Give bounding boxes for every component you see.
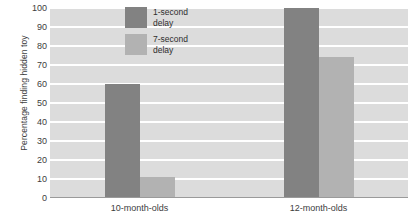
y-axis-tick-label: 10 [14,175,47,184]
bar-group [284,8,354,198]
y-axis-tick-label: 30 [14,137,47,146]
legend-swatch-icon [125,34,147,55]
bar[interactable] [105,84,140,198]
legend-swatch-icon [125,7,147,28]
x-axis-tick-label: 12-month-olds [259,203,379,214]
chart-legend: 1-second delay7-second delay [125,7,188,55]
x-axis-tick-label: 10-month-olds [80,203,200,214]
y-axis-tick-labels: 0102030405060708090100 [14,8,47,198]
y-axis-tick-label: 70 [14,61,47,70]
bar[interactable] [284,8,319,198]
legend-label: 7-second delay [153,34,188,55]
y-axis-tick-label: 0 [14,194,47,203]
y-axis-tick-label: 80 [14,42,47,51]
bar[interactable] [319,57,354,198]
x-axis-tick-labels: 10-month-olds12-month-olds [50,203,408,219]
plot-area [50,8,408,198]
y-axis-tick-label: 40 [14,118,47,127]
bars-layer [50,8,408,198]
legend-label: 1-second delay [153,7,188,28]
y-axis-tick-label: 100 [14,4,47,13]
bar-chart: Percentage finding hidden toy 0102030405… [0,0,415,223]
legend-item[interactable]: 1-second delay [125,7,188,28]
y-axis-tick-label: 90 [14,23,47,32]
y-axis-tick-label: 50 [14,99,47,108]
bar[interactable] [140,177,175,198]
x-axis-line [50,197,408,198]
legend-item[interactable]: 7-second delay [125,34,188,55]
y-axis-tick-label: 20 [14,156,47,165]
y-axis-tick-label: 60 [14,80,47,89]
